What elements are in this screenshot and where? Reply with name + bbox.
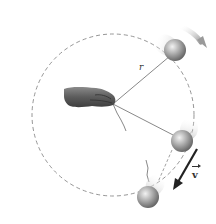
motion-direction-arrow (182, 27, 207, 48)
ball-right (171, 117, 200, 152)
ball-top (151, 31, 186, 61)
circular-motion-diagram (0, 0, 216, 224)
strings (113, 56, 193, 182)
velocity-label: v (192, 169, 198, 180)
radius-label: r (139, 62, 143, 72)
vector-arrow-icon (192, 166, 199, 167)
hand-icon (64, 87, 115, 107)
ball-released (137, 150, 172, 208)
